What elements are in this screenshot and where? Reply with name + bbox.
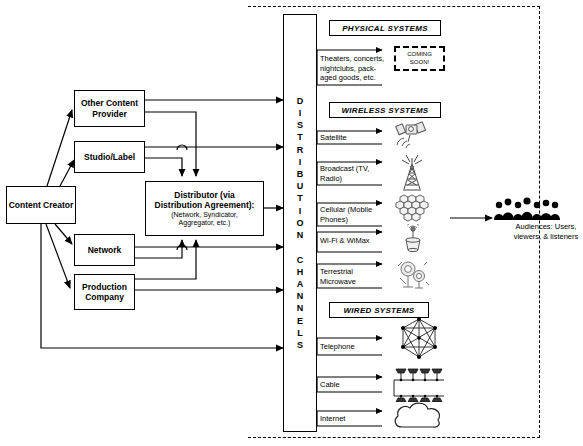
entity-label: Content Creator — [9, 200, 74, 211]
channel-label-broadcast: Broadcast (TV, Radio) — [320, 164, 369, 183]
audiences-caption-line1: Audiences: Users, — [491, 222, 583, 232]
mesh-network-icon — [396, 316, 442, 362]
wifi-access-point-icon — [398, 224, 428, 254]
channel-label-theaters: Theaters, concerts, nightclubs, pack- ag… — [320, 54, 384, 83]
audience-silhouettes-icon — [493, 196, 561, 220]
channel-label-cellular: Cellular (Mobile Phones) — [320, 205, 372, 224]
channel-label-satellite: Satellite — [320, 133, 347, 143]
channel-label-internet: Internet — [320, 414, 345, 424]
distributor-subtitle-line2: Aggregator, etc.) — [179, 219, 231, 228]
label-line: nightclubs, pack- — [320, 64, 384, 74]
label-line: aged goods, etc. — [320, 73, 384, 83]
section-header-wireless: WIRELESS SYSTEMS — [329, 102, 441, 118]
entity-box-distributor[interactable]: Distributor (via Distribution Agreement)… — [145, 181, 264, 236]
coming-soon-line1: COMING — [407, 51, 432, 59]
entity-box-other-content-provider[interactable]: Other Content Provider — [74, 90, 145, 127]
label-line: Phones) — [320, 215, 372, 225]
label-line: Cable — [320, 380, 340, 390]
entity-box-production-company[interactable]: Production Company — [74, 274, 135, 310]
distributor-subtitle-line1: (Network, Syndicator, — [171, 211, 238, 220]
coming-soon-line2: SOON! — [410, 59, 429, 67]
distributor-title-line1: Distributor (via — [174, 190, 234, 201]
label-line: Theaters, concerts, — [320, 54, 384, 64]
label-line: Telephone — [320, 342, 355, 352]
section-header-physical: PHYSICAL SYSTEMS — [329, 20, 441, 36]
entity-label: Production Company — [75, 282, 134, 303]
cloud-icon — [392, 400, 444, 432]
label-line: Cellular (Mobile — [320, 205, 372, 215]
entity-label: Other Content Provider — [75, 98, 144, 119]
audiences-caption-line2: viewers, & listeners — [491, 232, 583, 242]
label-line: Broadcast (TV, — [320, 164, 369, 174]
channel-label-wifi-wimax: Wi-Fi & WiMax — [320, 236, 370, 246]
channel-label-telephone: Telephone — [320, 342, 355, 352]
entity-box-network[interactable]: Network — [74, 234, 135, 266]
entity-box-studio-label[interactable]: Studio/Label — [74, 141, 145, 173]
label-line: Wi-Fi & WiMax — [320, 236, 370, 246]
satellite-icon — [392, 118, 432, 152]
channel-label-terrestrial-microwave: Terrestrial Microwave — [320, 267, 356, 286]
distribution-channels-column: DISTRIBUTION CHANNELS — [283, 14, 317, 432]
channel-label-cable: Cable — [320, 380, 340, 390]
section-header-label: PHYSICAL SYSTEMS — [342, 24, 428, 33]
entity-label: Studio/Label — [84, 152, 135, 163]
coming-soon-box: COMING SOON! — [394, 46, 445, 71]
cellular-honeycomb-icon — [392, 194, 436, 224]
distribution-channels-letters: DISTRIBUTION CHANNELS — [296, 95, 303, 351]
entity-label: Network — [88, 245, 122, 256]
audiences-caption: Audiences: Users, viewers, & listeners — [491, 222, 583, 241]
cable-tree-icon — [390, 366, 448, 402]
section-header-label: WIRED SYSTEMS — [343, 306, 414, 315]
distributor-title-line2: Distribution Agreement): — [155, 200, 255, 211]
label-line: Terrestrial — [320, 267, 356, 277]
broadcast-tower-icon — [396, 152, 428, 192]
label-line: Satellite — [320, 133, 347, 143]
label-line: Internet — [320, 414, 345, 424]
entity-box-content-creator[interactable]: Content Creator — [6, 186, 76, 224]
section-header-label: WIRELESS SYSTEMS — [341, 106, 428, 115]
label-line: Microwave — [320, 277, 356, 287]
microwave-dish-icon — [394, 256, 432, 292]
label-line: Radio) — [320, 174, 369, 184]
